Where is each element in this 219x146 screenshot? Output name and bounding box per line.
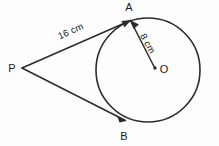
point-label-p: P xyxy=(8,62,15,74)
arrowhead-pa xyxy=(122,20,132,28)
point-label-b: B xyxy=(120,130,127,142)
segment-pb xyxy=(22,68,126,121)
arrowhead-ao xyxy=(130,20,139,29)
measurement-label-ao-group: 8 cm xyxy=(138,31,158,55)
measurement-label-ao: 8 cm xyxy=(138,31,158,55)
geometry-figure: 16 cm 8 cm P A B O xyxy=(0,0,219,146)
point-label-a: A xyxy=(125,1,133,13)
geometry-canvas: 16 cm 8 cm P A B O xyxy=(0,0,219,146)
center-point-dot xyxy=(153,66,156,69)
measurement-label-pa-group: 16 cm xyxy=(56,20,85,41)
point-label-o: O xyxy=(160,63,169,75)
measurement-label-pa: 16 cm xyxy=(56,20,85,41)
